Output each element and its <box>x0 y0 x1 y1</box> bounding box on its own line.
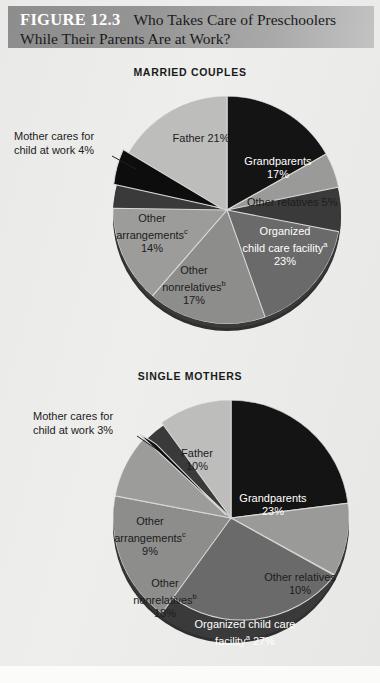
callout-mother-cares-single: Mother cares for child at work 3% <box>33 410 113 437</box>
label-grandparents-single: Grandparents 23% <box>218 492 328 518</box>
label-other-nonrelatives-married: Other nonrelativesb 17% <box>140 264 248 307</box>
leader-line-single <box>137 436 165 454</box>
chart-single-mothers: SINGLE MOTHERS <box>0 352 380 683</box>
chart-heading-single: SINGLE MOTHERS <box>0 370 380 382</box>
label-other-arrangements-single: Other arrangementsc 9% <box>95 515 205 558</box>
label-father-married: Father 21% <box>146 132 256 145</box>
footnote-mark-a: a <box>323 240 327 249</box>
figure-title-text-1: Who Takes Care of Preschoolers <box>133 11 336 28</box>
footnote-mark-b: b <box>222 279 226 288</box>
figure-page: FIGURE 12.3Who Takes Care of Preschooler… <box>0 0 380 683</box>
footnote-mark-c: c <box>182 530 186 539</box>
figure-title-bar: FIGURE 12.3Who Takes Care of Preschooler… <box>8 6 374 48</box>
footnote-mark-c: c <box>184 227 188 236</box>
label-grandparents-married: Grandparents 17% <box>228 155 328 181</box>
chart-heading-married: MARRIED COUPLES <box>0 66 380 78</box>
label-other-relatives-married: Other relatives 5% <box>247 196 373 209</box>
label-other-arrangements-married: Other arrangementsc 14% <box>97 212 207 255</box>
figure-number: FIGURE 12.3 <box>20 10 120 29</box>
label-other-relatives-single: Other relatives 10% <box>240 571 360 597</box>
figure-title-line-1: FIGURE 12.3Who Takes Care of Preschooler… <box>20 10 374 29</box>
label-organized-child-care-single: Organized child care facilitya 27% <box>170 618 320 648</box>
leader-line-married <box>112 156 142 172</box>
footnote-mark-b: b <box>193 592 197 601</box>
callout-mother-cares-married: Mother cares for child at work 4% <box>14 130 94 157</box>
footnote-mark-a: a <box>246 633 250 642</box>
chart-married-couples: MARRIED COUPLES <box>0 52 380 337</box>
label-other-nonrelatives-single: Other nonrelativesb 18% <box>110 577 220 620</box>
label-organized-child-care-married: Organized child care facilitya 23% <box>226 225 344 268</box>
figure-title-text-2: While Their Parents Are at Work? <box>20 30 230 47</box>
figure-title-line-2: While Their Parents Are at Work? <box>20 29 374 48</box>
